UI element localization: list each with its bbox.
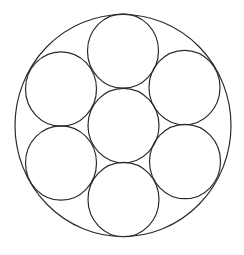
inner-circle-lower-right (150, 124, 221, 198)
inner-circle-upper-right (149, 50, 220, 124)
inner-circle-upper-left (26, 52, 97, 126)
inner-circle-top (88, 14, 159, 88)
outer-circle (15, 15, 231, 237)
inner-circle-lower-left (26, 126, 97, 200)
inner-circle-bottom (88, 162, 159, 236)
inner-circle-center (88, 88, 159, 162)
circle-packing-diagram (0, 0, 244, 255)
